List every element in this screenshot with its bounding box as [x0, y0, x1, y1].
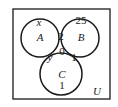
universe-label: U	[93, 85, 102, 97]
venn-diagram: x A 25 B 2 0 y 1 C 1 U	[0, 0, 118, 107]
region-only-c-value: 1	[59, 79, 65, 91]
region-a-b-c-value: 0	[59, 45, 65, 57]
set-b-label: B	[78, 31, 85, 43]
region-a-and-c-value: y	[47, 51, 53, 63]
region-only-a-value: x	[36, 16, 42, 28]
region-a-and-b-value: 2	[58, 30, 64, 42]
set-a-label: A	[36, 31, 44, 43]
region-only-b-value: 25	[76, 14, 88, 26]
region-b-and-c-value: 1	[71, 51, 77, 63]
